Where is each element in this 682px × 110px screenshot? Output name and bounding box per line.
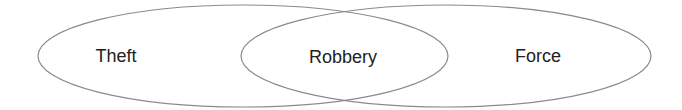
force-set-ellipse [241, 5, 651, 107]
robbery-intersection-label: Robbery [309, 48, 377, 66]
force-label: Force [515, 47, 561, 65]
theft-label: Theft [95, 47, 136, 65]
